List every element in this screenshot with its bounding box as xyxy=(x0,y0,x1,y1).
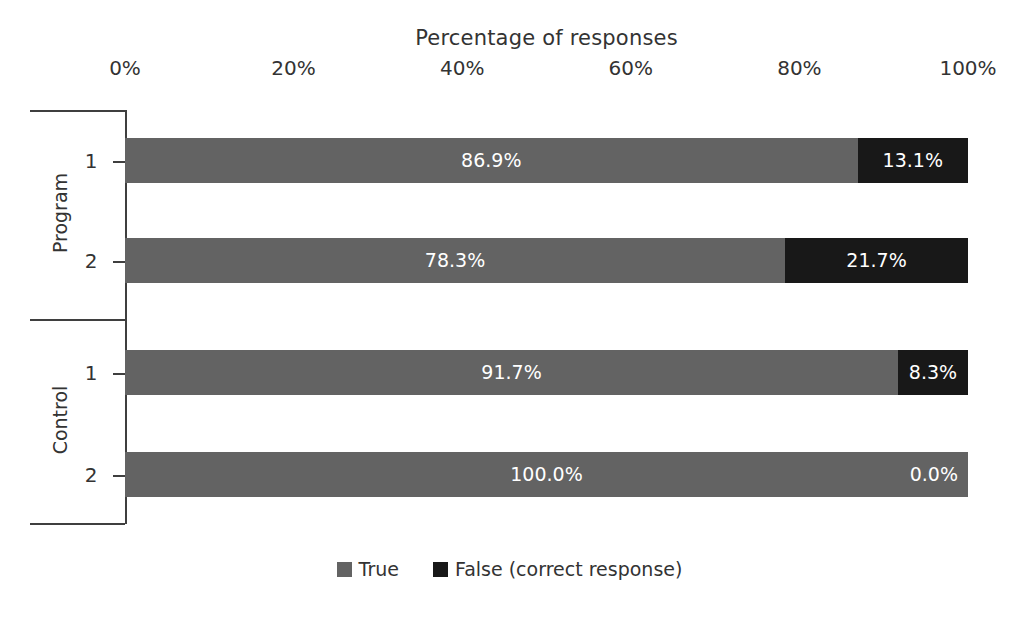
x-axis-tick-0: 0% xyxy=(109,56,141,80)
category-tick-program-1 xyxy=(113,161,125,163)
bar-value-label: 91.7% xyxy=(481,363,541,382)
bar-segment-false[interactable]: 13.1% xyxy=(858,138,968,183)
group-bracket-middle xyxy=(30,319,125,321)
x-axis-tick-40: 40% xyxy=(440,56,484,80)
group-label-text: Control xyxy=(49,386,71,455)
legend-label: True xyxy=(359,558,399,580)
category-label-control-2: 2 xyxy=(72,463,110,487)
group-label-control: Control xyxy=(0,409,120,431)
bar-segment-false[interactable]: 21.7% xyxy=(785,238,968,283)
stacked-bar-chart: Percentage of responses 0%20%40%60%80%10… xyxy=(0,0,1019,625)
bar-value-label: 78.3% xyxy=(425,251,485,270)
legend-swatch-icon xyxy=(433,562,448,577)
category-label-program-1: 1 xyxy=(72,149,110,173)
legend-item-false[interactable]: False (correct response) xyxy=(433,558,682,580)
bar-value-label: 13.1% xyxy=(883,151,943,170)
legend-label: False (correct response) xyxy=(455,558,682,580)
legend-swatch-icon xyxy=(337,562,352,577)
chart-title: Percentage of responses xyxy=(125,26,968,50)
x-axis-tick-60: 60% xyxy=(609,56,653,80)
legend-item-true[interactable]: True xyxy=(337,558,399,580)
bar-segment-true[interactable]: 86.9% xyxy=(125,138,858,183)
bar-segment-false[interactable]: 8.3% xyxy=(898,350,968,395)
category-tick-control-1 xyxy=(113,373,125,375)
x-axis-tick-labels: 0%20%40%60%80%100% xyxy=(125,56,968,82)
category-tick-control-2 xyxy=(113,475,125,477)
bar-value-label: 21.7% xyxy=(846,251,906,270)
bar-row[interactable]: 78.3%21.7% xyxy=(125,238,968,283)
bar-row[interactable]: 91.7%8.3% xyxy=(125,350,968,395)
bar-segment-true[interactable]: 78.3% xyxy=(125,238,785,283)
bar-value-label: 0.0% xyxy=(910,465,958,484)
group-bracket-top xyxy=(30,110,125,112)
bar-row[interactable]: 86.9%13.1% xyxy=(125,138,968,183)
bar-segment-true[interactable]: 100.0% xyxy=(125,452,968,497)
group-bracket-bottom xyxy=(30,523,125,525)
chart-legend: TrueFalse (correct response) xyxy=(0,558,1019,580)
group-label-text: Program xyxy=(49,173,71,253)
x-axis-tick-100: 100% xyxy=(939,56,996,80)
bar-value-label: 8.3% xyxy=(909,363,957,382)
category-label-control-1: 1 xyxy=(72,361,110,385)
bar-row[interactable]: 100.0%0.0% xyxy=(125,452,968,497)
bar-segment-true[interactable]: 91.7% xyxy=(125,350,898,395)
bar-value-label: 86.9% xyxy=(461,151,521,170)
category-label-program-2: 2 xyxy=(72,249,110,273)
group-label-program: Program xyxy=(0,202,120,224)
x-axis-tick-80: 80% xyxy=(777,56,821,80)
x-axis-tick-20: 20% xyxy=(271,56,315,80)
bar-value-label: 100.0% xyxy=(510,465,582,484)
category-tick-program-2 xyxy=(113,261,125,263)
